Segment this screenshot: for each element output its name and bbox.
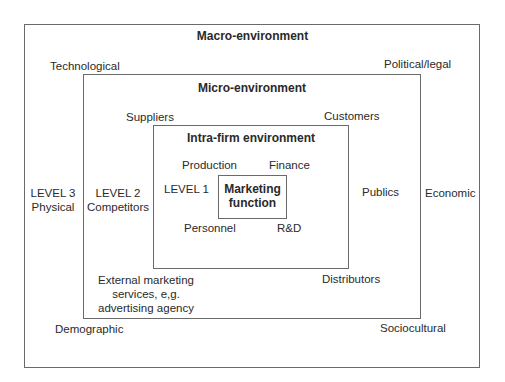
factor-political-legal: Political/legal bbox=[384, 57, 451, 71]
dept-finance: Finance bbox=[269, 158, 310, 172]
factor-demographic: Demographic bbox=[55, 322, 123, 336]
marketing-function-label: Marketing function bbox=[218, 182, 287, 210]
actor-customers: Customers bbox=[324, 109, 380, 123]
level-2-label: LEVEL 2 Competitors bbox=[85, 186, 151, 214]
dept-personnel: Personnel bbox=[184, 221, 236, 235]
dept-rnd: R&D bbox=[277, 221, 301, 235]
factor-economic: Economic bbox=[425, 186, 476, 200]
competitors-label: Competitors bbox=[85, 200, 151, 214]
factor-sociocultural: Sociocultural bbox=[380, 321, 446, 335]
physical-label: Physical bbox=[28, 200, 78, 214]
actor-external-marketing-services: External marketing services, e,g. advert… bbox=[90, 273, 202, 315]
factor-technological: Technological bbox=[50, 59, 120, 73]
micro-environment-title: Micro-environment bbox=[83, 81, 421, 95]
level-3: LEVEL 3 bbox=[28, 186, 78, 200]
intra-firm-environment-title: Intra-firm environment bbox=[153, 131, 349, 145]
actor-distributors: Distributors bbox=[322, 272, 380, 286]
level-2: LEVEL 2 bbox=[85, 186, 151, 200]
level-3-label: LEVEL 3 Physical bbox=[28, 186, 78, 214]
dept-production: Production bbox=[182, 158, 237, 172]
level-1-label: LEVEL 1 bbox=[164, 182, 209, 196]
macro-environment-title: Macro-environment bbox=[0, 29, 505, 43]
actor-suppliers: Suppliers bbox=[126, 110, 174, 124]
actor-publics: Publics bbox=[362, 185, 399, 199]
